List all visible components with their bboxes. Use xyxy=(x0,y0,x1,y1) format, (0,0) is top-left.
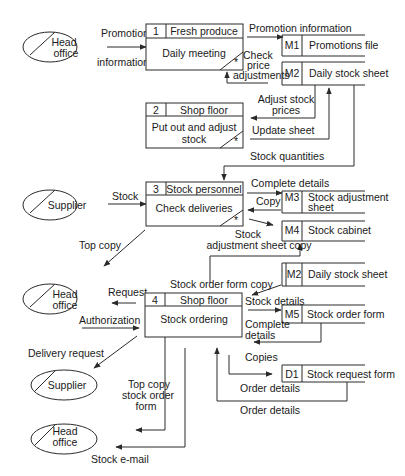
store-m1-promotions-file: M1 Promotions file xyxy=(282,35,379,56)
flow-label: Promotion information xyxy=(249,22,352,34)
external-label: office xyxy=(54,47,79,59)
process-name: Put out and adjust xyxy=(152,121,237,133)
store-m3-stock-adjustment-sheet: M3 Stock adjustment sheet xyxy=(282,191,389,213)
flow-label: Authorization xyxy=(79,314,140,326)
store-name: Stock order form xyxy=(307,308,385,320)
flow-label: Stock e-mail xyxy=(91,453,149,465)
flow-label: Order details xyxy=(240,404,300,416)
process-4-stock-ordering: 4 Shop floor Stock ordering xyxy=(145,293,242,337)
external-label: office xyxy=(53,436,78,448)
external-supplier-1: Supplier xyxy=(23,190,87,220)
external-head-office-2: Head office xyxy=(23,284,78,314)
store-id: D1 xyxy=(285,368,299,380)
store-m2-daily-stock-sheet: M2 Daily stock sheet xyxy=(282,62,388,85)
process-id: 3 xyxy=(153,183,159,195)
data-flow-diagram: Head office Promotion information 1 Fres… xyxy=(0,0,405,476)
external-label: Supplier xyxy=(48,379,87,391)
process-1-daily-meeting: 1 Fresh produce Daily meeting * xyxy=(146,24,243,70)
flow-label: Stock quantities xyxy=(250,150,324,162)
flow-label: Request xyxy=(108,286,147,298)
flow-label: form xyxy=(136,400,157,412)
store-name: Stock cabinet xyxy=(308,224,371,236)
store-id: M3 xyxy=(285,191,300,203)
process-id: 1 xyxy=(153,25,159,37)
asterisk: * xyxy=(234,135,238,147)
process-name: stock xyxy=(182,133,207,145)
flow-label: Stock order form copy xyxy=(170,278,273,290)
process-name: Daily meeting xyxy=(162,47,226,59)
flow-label: details xyxy=(245,329,275,341)
flow-label: Promotion xyxy=(101,27,149,39)
process-id: 2 xyxy=(153,104,159,116)
external-head-office-3: Head office xyxy=(31,424,97,454)
asterisk: * xyxy=(234,56,238,68)
flow-label: Delivery request xyxy=(28,347,104,359)
flow-stock-adj-to-m4 xyxy=(249,219,273,225)
flow-label: Stock xyxy=(112,190,139,202)
flow-label: prices xyxy=(272,104,300,116)
process-owner: Fresh produce xyxy=(170,25,238,37)
store-m2-daily-stock-sheet-duplicate: M2 Daily stock sheet xyxy=(282,263,387,286)
flow-label: Top copy xyxy=(79,239,122,251)
store-name: Stock request form xyxy=(307,368,395,380)
flow-label: adjustments xyxy=(233,69,290,81)
flow-label: information xyxy=(97,56,149,68)
store-m4-stock-cabinet: M4 Stock cabinet xyxy=(282,221,371,241)
process-name: Stock ordering xyxy=(160,313,228,325)
flow-label: Complete details xyxy=(251,177,329,189)
flow-label: Copy xyxy=(256,195,281,207)
process-3-check-deliveries: 3 Stock personnel Check deliveries * xyxy=(146,182,243,226)
flow-label: Copies xyxy=(245,351,278,363)
process-owner: Shop floor xyxy=(180,104,228,116)
store-m5-stock-order-form: M5 Stock order form xyxy=(282,305,385,323)
flow-label: Update sheet xyxy=(252,124,315,136)
external-label: Supplier xyxy=(48,199,87,211)
external-supplier-2: Supplier xyxy=(31,370,97,400)
store-name: Promotions file xyxy=(309,39,379,51)
store-d1-stock-request-form: D1 Stock request form xyxy=(282,365,395,382)
process-owner: Shop floor xyxy=(180,294,228,306)
store-id: M1 xyxy=(285,39,300,51)
process-name: Check deliveries xyxy=(155,202,232,214)
store-id: M4 xyxy=(285,224,300,236)
store-name: sheet xyxy=(308,201,334,213)
asterisk: * xyxy=(234,214,238,226)
process-owner: Stock personnel xyxy=(166,183,241,195)
flow-label: Order details xyxy=(240,382,300,394)
process-2-put-out-adjust-stock: 2 Shop floor Put out and adjust stock * xyxy=(146,103,243,148)
external-label: office xyxy=(53,299,78,311)
process-id: 4 xyxy=(152,294,158,306)
store-id: M2 xyxy=(287,268,302,280)
store-name: Daily stock sheet xyxy=(308,268,387,280)
flow-label: adjustment sheet copy xyxy=(206,239,312,251)
store-name: Daily stock sheet xyxy=(309,67,388,79)
external-head-office-1: Head office xyxy=(23,32,79,62)
